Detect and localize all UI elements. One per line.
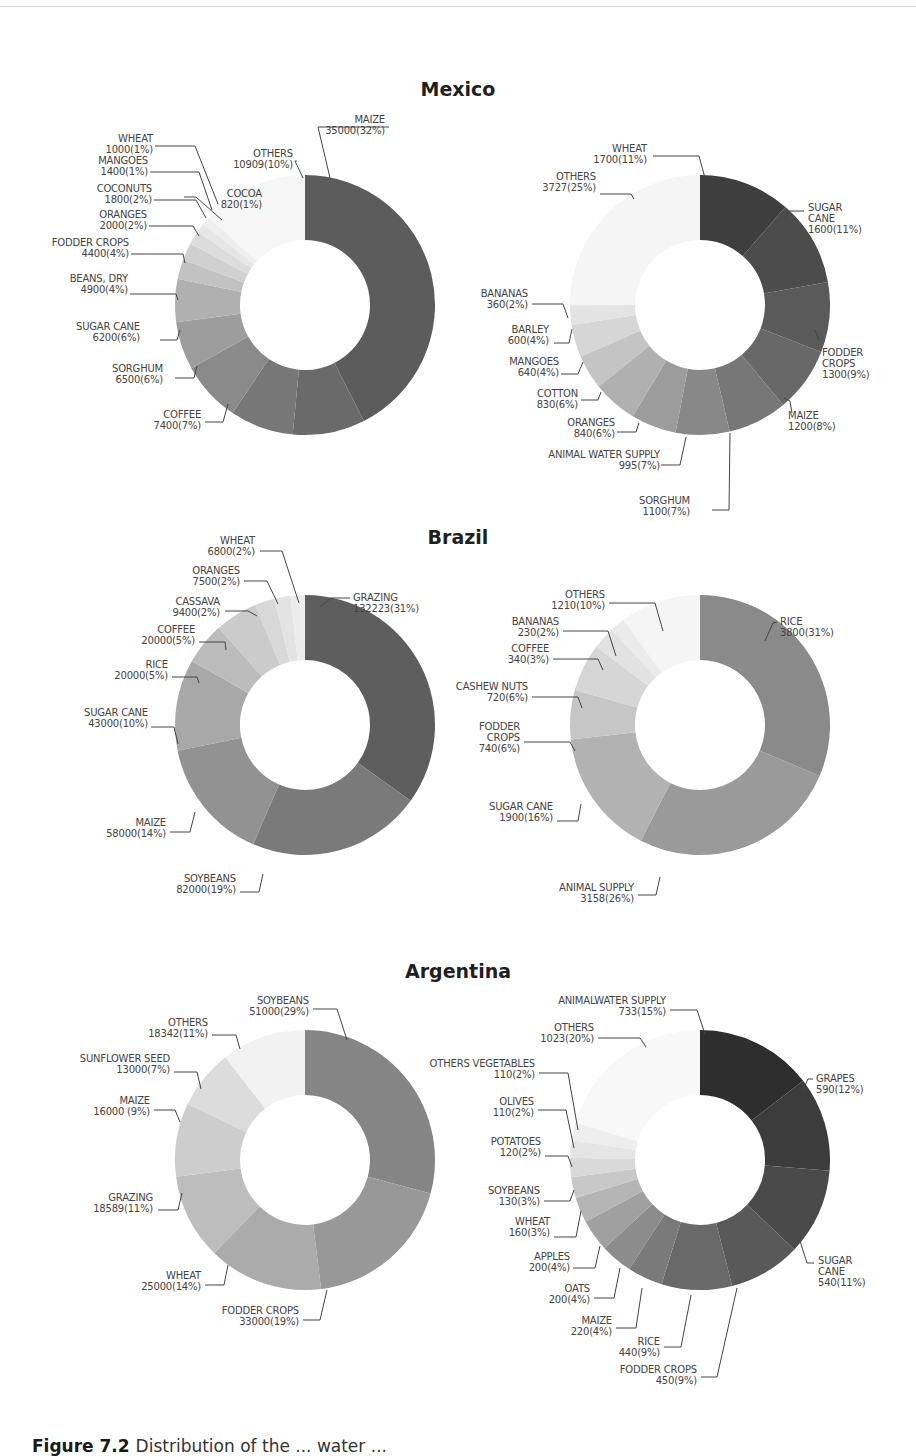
slice-label: OTHERS3727(25%): [542, 171, 634, 199]
donut-chart-mexico-left: [175, 175, 435, 435]
slice-label: FODDER CROPS33000(19%): [222, 1290, 327, 1327]
svg-text:ORANGES: ORANGES: [99, 209, 147, 220]
slice-label: APPLES200(4%): [529, 1246, 600, 1273]
svg-text:9400(2%): 9400(2%): [172, 607, 220, 618]
svg-text:110(2%): 110(2%): [494, 1069, 536, 1080]
svg-text:82000(19%): 82000(19%): [176, 884, 236, 895]
svg-text:MAIZE: MAIZE: [135, 817, 166, 828]
svg-text:OLIVES: OLIVES: [499, 1096, 534, 1107]
svg-text:995(7%): 995(7%): [619, 460, 661, 471]
slice-label: OTHERS VEGETABLES110(2%): [430, 1058, 578, 1130]
slice-label: CASHEW NUTS720(6%): [456, 681, 582, 708]
svg-text:1100(7%): 1100(7%): [642, 506, 690, 517]
svg-text:CROPS: CROPS: [822, 358, 855, 369]
caption-label: Figure 7.2: [32, 1436, 130, 1456]
donut-slice: [570, 175, 700, 305]
svg-text:FODDER CROPS: FODDER CROPS: [620, 1364, 697, 1375]
svg-text:SORGHUM: SORGHUM: [112, 363, 163, 374]
donut-chart-mexico-right: [570, 175, 830, 435]
svg-text:OTHERS VEGETABLES: OTHERS VEGETABLES: [430, 1058, 535, 1069]
slice-label: POTATOES120(2%): [491, 1136, 572, 1167]
svg-text:130(3%): 130(3%): [499, 1196, 541, 1207]
slice-label: SOYBEANS130(3%): [488, 1185, 574, 1207]
svg-text:SOYBEANS: SOYBEANS: [488, 1185, 540, 1196]
svg-text:200(4%): 200(4%): [549, 1294, 591, 1305]
svg-text:6800(2%): 6800(2%): [207, 546, 255, 557]
slice-label: ORANGES2000(2%): [99, 209, 199, 236]
svg-text:OTHERS: OTHERS: [565, 589, 605, 600]
svg-text:SUGAR CANE: SUGAR CANE: [489, 801, 553, 812]
svg-text:51000(29%): 51000(29%): [249, 1006, 309, 1017]
svg-text:CANE: CANE: [808, 213, 835, 224]
slice-label: WHEAT1700(11%): [593, 143, 705, 178]
donut-chart-brazil-left: [175, 595, 435, 855]
svg-text:RICE: RICE: [146, 659, 168, 670]
svg-text:440(9%): 440(9%): [619, 1347, 661, 1358]
slice-label: SUGARCANE540(11%): [800, 1241, 866, 1288]
svg-text:MAIZE: MAIZE: [119, 1095, 150, 1106]
svg-text:10909(10%): 10909(10%): [233, 159, 293, 170]
svg-text:MANGOES: MANGOES: [98, 155, 148, 166]
svg-text:MANGOES: MANGOES: [509, 356, 559, 367]
svg-text:600(4%): 600(4%): [508, 335, 550, 346]
svg-text:120(2%): 120(2%): [500, 1147, 542, 1158]
slice-label: SUGAR CANE43000(10%): [84, 707, 178, 744]
svg-text:733(15%): 733(15%): [618, 1006, 666, 1017]
svg-text:340(3%): 340(3%): [508, 654, 550, 665]
svg-text:110(2%): 110(2%): [493, 1107, 535, 1118]
donut-slice: [575, 1030, 700, 1141]
svg-text:6500(6%): 6500(6%): [115, 374, 163, 385]
slice-label: OTHERS1023(20%): [540, 1022, 646, 1047]
slice-label: OTHERS18342(11%): [148, 1017, 240, 1049]
svg-text:GRAPES: GRAPES: [816, 1073, 855, 1084]
svg-text:6200(6%): 6200(6%): [92, 332, 140, 343]
svg-text:CROPS: CROPS: [487, 732, 520, 743]
slice-label: WHEAT25000(14%): [141, 1265, 228, 1292]
svg-text:CASHEW NUTS: CASHEW NUTS: [456, 681, 528, 692]
svg-text:540(11%): 540(11%): [818, 1277, 866, 1288]
svg-text:4900(4%): 4900(4%): [80, 284, 128, 295]
svg-text:18589(11%): 18589(11%): [93, 1203, 153, 1214]
slice-label: BARLEY600(4%): [508, 324, 572, 346]
slice-label: ANIMAL WATER SUPPLY995(7%): [548, 437, 686, 471]
donut-chart-argentina-right: [570, 1030, 830, 1290]
svg-text:SOYBEANS: SOYBEANS: [184, 873, 236, 884]
svg-text:ANIMAL WATER SUPPLY: ANIMAL WATER SUPPLY: [548, 449, 661, 460]
svg-text:4400(4%): 4400(4%): [81, 248, 129, 259]
svg-text:3158(26%): 3158(26%): [580, 893, 634, 904]
caption-text: Distribution of the ... water ...: [136, 1436, 387, 1456]
svg-text:720(6%): 720(6%): [487, 692, 529, 703]
svg-text:OTHERS: OTHERS: [168, 1017, 208, 1028]
svg-text:OTHERS: OTHERS: [556, 171, 596, 182]
svg-text:OATS: OATS: [565, 1283, 590, 1294]
donut-slice: [313, 1177, 431, 1289]
svg-text:SUNFLOWER SEED: SUNFLOWER SEED: [80, 1053, 171, 1064]
svg-text:OTHERS: OTHERS: [554, 1022, 594, 1033]
svg-text:FODDER: FODDER: [479, 721, 520, 732]
svg-text:18342(11%): 18342(11%): [148, 1028, 208, 1039]
slice-label: SORGHUM6500(6%): [112, 363, 197, 385]
svg-text:590(12%): 590(12%): [816, 1084, 864, 1095]
svg-text:1400(1%): 1400(1%): [100, 166, 148, 177]
svg-text:MAIZE: MAIZE: [581, 1315, 612, 1326]
svg-text:COTTON: COTTON: [537, 388, 578, 399]
svg-text:7400(7%): 7400(7%): [153, 420, 201, 431]
svg-text:SUGAR: SUGAR: [808, 202, 842, 213]
svg-text:43000(10%): 43000(10%): [88, 718, 148, 729]
slice-label: MAIZE35000(32%): [318, 114, 389, 178]
slice-label: MAIZE1200(8%): [784, 398, 836, 432]
slice-label: SUNFLOWER SEED13000(7%): [80, 1053, 201, 1089]
slice-label: ANIMAL SUPPLY3158(26%): [559, 877, 660, 904]
donut-slice: [305, 595, 435, 801]
svg-text:16000 (9%): 16000 (9%): [93, 1106, 150, 1117]
slice-label: GRAZING18589(11%): [93, 1192, 182, 1214]
svg-text:CANE: CANE: [818, 1266, 845, 1277]
svg-text:820(1%): 820(1%): [221, 199, 263, 210]
svg-text:MAIZE: MAIZE: [788, 410, 819, 421]
svg-text:740(6%): 740(6%): [479, 743, 521, 754]
slice-label: OTHERS10909(10%): [233, 148, 303, 178]
svg-text:BEANS, DRY: BEANS, DRY: [70, 273, 129, 284]
slice-label: OATS200(4%): [549, 1268, 620, 1305]
svg-text:SUGAR CANE: SUGAR CANE: [76, 321, 140, 332]
svg-text:640(4%): 640(4%): [518, 367, 560, 378]
